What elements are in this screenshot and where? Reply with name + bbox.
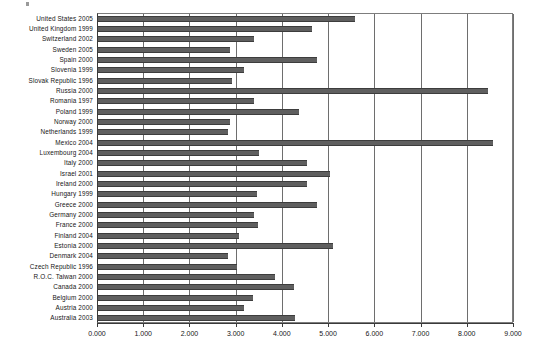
bar [98, 36, 254, 42]
bar-row [98, 86, 512, 96]
x-tick [421, 323, 422, 327]
bar [98, 274, 275, 280]
x-tick [97, 323, 98, 327]
bar [98, 98, 254, 104]
bar-row [98, 169, 512, 179]
category-label: Ireland 2000 [0, 180, 93, 187]
bar [98, 202, 317, 208]
bar-row [98, 303, 512, 313]
bar-row [98, 283, 512, 293]
bar-row [98, 66, 512, 76]
bar [98, 16, 355, 22]
bar [98, 119, 230, 125]
category-axis-labels: United States 2005United Kingdom 1999Swi… [0, 13, 93, 323]
bar-row [98, 107, 512, 117]
bar-row [98, 45, 512, 55]
category-label: Belgium 2000 [0, 294, 93, 301]
bar-row [98, 200, 512, 210]
category-label: Switzerland 2002 [0, 35, 93, 42]
category-label: Hungary 1999 [0, 190, 93, 197]
bar [98, 78, 232, 84]
x-tick-label: 6.000 [366, 329, 384, 338]
category-label: Finland 2004 [0, 232, 93, 239]
bar-row [98, 231, 512, 241]
bar [98, 171, 330, 177]
bar [98, 191, 257, 197]
bar-row [98, 128, 512, 138]
bar-row [98, 14, 512, 24]
bar [98, 253, 228, 259]
x-tick [467, 323, 468, 327]
bar [98, 295, 253, 301]
bar [98, 88, 488, 94]
bar-row [98, 138, 512, 148]
category-label: Germany 2000 [0, 211, 93, 218]
category-label: Austria 2000 [0, 304, 93, 311]
category-label: Poland 1999 [0, 108, 93, 115]
category-label: Denmark 2004 [0, 252, 93, 259]
x-tick-label: 4.000 [273, 329, 291, 338]
bar [98, 305, 244, 311]
bar [98, 67, 244, 73]
bar-row [98, 35, 512, 45]
category-label: R.O.C. Taiwan 2000 [0, 273, 93, 280]
category-label: Greece 2000 [0, 201, 93, 208]
x-tick-label: 1.000 [134, 329, 152, 338]
category-label: France 2000 [0, 221, 93, 228]
bar-chart: United States 2005United Kingdom 1999Swi… [0, 0, 533, 349]
bar-row [98, 148, 512, 158]
bar-row [98, 190, 512, 200]
x-tick [328, 323, 329, 327]
bar-row [98, 159, 512, 169]
category-label: Estonia 2000 [0, 242, 93, 249]
bar-row [98, 76, 512, 86]
bar [98, 233, 239, 239]
gridline-9.000 [513, 14, 514, 322]
bar-row [98, 97, 512, 107]
x-tick-label: 7.000 [412, 329, 430, 338]
category-label: Israel 2001 [0, 170, 93, 177]
bar [98, 315, 295, 321]
bar-row [98, 179, 512, 189]
x-tick [189, 323, 190, 327]
bar [98, 26, 312, 32]
x-tick-label: 8.000 [458, 329, 476, 338]
x-tick-label: 2.000 [181, 329, 199, 338]
bar-row [98, 272, 512, 282]
bar-row [98, 252, 512, 262]
category-label: Luxembourg 2004 [0, 149, 93, 156]
plot-area [97, 13, 513, 323]
bar [98, 160, 307, 166]
bar [98, 222, 258, 228]
x-tick-label: 9.000 [504, 329, 522, 338]
bar-rows [98, 14, 512, 322]
category-label: Russia 2000 [0, 87, 93, 94]
scan-artifact [26, 2, 29, 6]
category-label: Italy 2000 [0, 159, 93, 166]
x-tick-label: 0.000 [88, 329, 106, 338]
bar [98, 140, 493, 146]
category-label: Canada 2000 [0, 283, 93, 290]
bar-row [98, 210, 512, 220]
bar-row [98, 241, 512, 251]
x-tick [282, 323, 283, 327]
category-label: Romania 1997 [0, 97, 93, 104]
bar-row [98, 262, 512, 272]
bar [98, 150, 259, 156]
x-tick [374, 323, 375, 327]
category-label: Netherlands 1999 [0, 128, 93, 135]
category-label: United Kingdom 1999 [0, 25, 93, 32]
x-tick [513, 323, 514, 327]
x-axis-line [97, 323, 513, 324]
bar [98, 129, 228, 135]
bar [98, 57, 317, 63]
x-tick-label: 3.000 [227, 329, 245, 338]
bar [98, 264, 237, 270]
bar-row [98, 117, 512, 127]
bar [98, 47, 230, 53]
x-tick-label: 5.000 [319, 329, 337, 338]
category-label: Norway 2000 [0, 118, 93, 125]
x-tick [236, 323, 237, 327]
category-label: United States 2005 [0, 15, 93, 22]
bar-row [98, 24, 512, 34]
